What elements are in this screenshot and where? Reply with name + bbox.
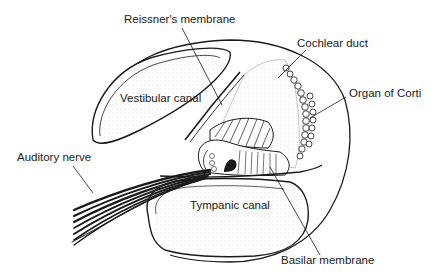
cochlea-diagram: Reissner's membrane Cochlear duct Organ … [0,0,438,274]
label-cochlear-duct: Cochlear duct [297,38,368,50]
label-tympanic-canal: Tympanic canal [190,200,270,212]
label-basilar-membrane: Basilar membrane [281,255,374,267]
label-auditory-nerve: Auditory nerve [17,152,91,164]
label-organ-of-corti: Organ of Corti [349,88,421,100]
label-reissners-membrane: Reissner's membrane [124,14,236,26]
cochlea-drawing [0,0,438,274]
label-vestibular-canal: Vestibular canal [120,93,201,105]
